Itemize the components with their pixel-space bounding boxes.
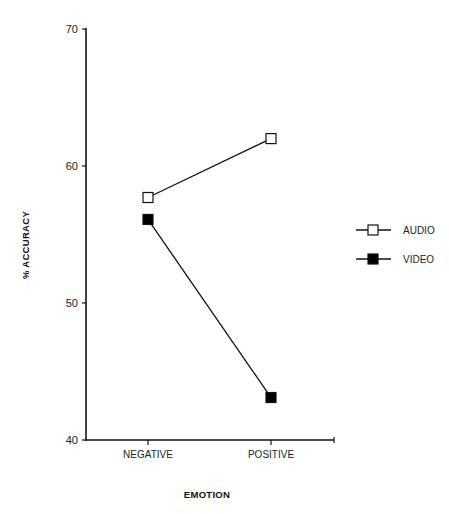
series-line (148, 139, 271, 198)
open-square-marker-icon (266, 134, 276, 144)
open-square-marker-icon (368, 225, 378, 235)
legend: AUDIOVIDEO (356, 225, 435, 265)
series-video (143, 214, 276, 402)
legend-item-video: VIDEO (356, 254, 434, 265)
filled-square-marker-icon (266, 393, 276, 403)
y-tick-label: 60 (66, 160, 78, 172)
x-tick-label-positive: POSITIVE (248, 449, 294, 460)
line-chart: 40506070 NEGATIVEPOSITIVE AUDIOVIDEO % A… (0, 0, 449, 514)
x-ticks: NEGATIVEPOSITIVE (123, 440, 294, 460)
legend-label: VIDEO (403, 254, 434, 265)
legend-item-audio: AUDIO (356, 225, 435, 236)
legend-label: AUDIO (403, 225, 435, 236)
open-square-marker-icon (143, 193, 153, 203)
filled-square-marker-icon (143, 214, 153, 224)
x-tick-label-negative: NEGATIVE (123, 449, 173, 460)
x-axis-title: EMOTION (184, 489, 230, 500)
filled-square-marker-icon (368, 254, 378, 264)
series-line (148, 219, 271, 397)
data-series (143, 134, 276, 403)
y-tick-label: 50 (66, 297, 78, 309)
series-audio (143, 134, 276, 203)
y-axis-title: % ACCURACY (20, 211, 31, 279)
y-tick-label: 40 (66, 434, 78, 446)
y-ticks: 40506070 (66, 23, 86, 446)
y-tick-label: 70 (66, 23, 78, 35)
